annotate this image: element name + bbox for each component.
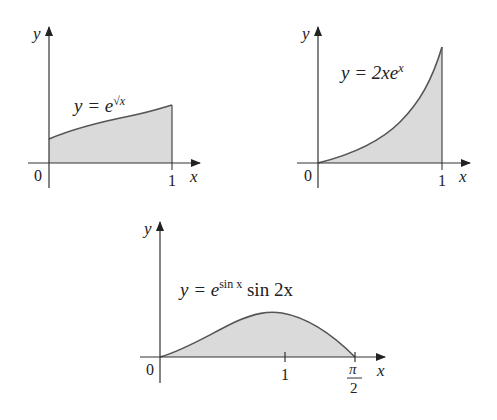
- y-axis-label: y: [142, 219, 152, 238]
- tick-label-1: 1: [281, 366, 289, 383]
- tick-label-1: 1: [438, 172, 446, 189]
- origin-label: 0: [34, 167, 42, 184]
- y-axis-label: y: [31, 24, 41, 43]
- origin-label: 0: [146, 361, 154, 378]
- graph-exp-sqrt: y x 0 1 y = e√x: [28, 24, 200, 189]
- figure-canvas: y x 0 1 y = e√x y x 0 1 y = 2xex y x 0 1…: [0, 0, 497, 420]
- shaded-region: [160, 312, 355, 357]
- x-axis-label: x: [189, 167, 198, 186]
- y-axis-label: y: [300, 24, 310, 43]
- graph-esinx-sin2x: y x 0 1 π 2 y = esin x sin 2x: [140, 219, 385, 396]
- tick-label-pi: π: [349, 361, 357, 377]
- equation-label: y = esin x sin 2x: [178, 277, 293, 300]
- graph-2xex: y x 0 1 y = 2xex: [297, 24, 470, 189]
- equation-label: y = e√x: [72, 94, 126, 116]
- equation-label: y = 2xex: [339, 61, 404, 83]
- origin-label: 0: [304, 167, 312, 184]
- tick-label-1: 1: [168, 172, 176, 189]
- tick-label-two: 2: [350, 380, 358, 396]
- x-axis-label: x: [458, 167, 467, 186]
- x-axis-label: x: [376, 361, 385, 380]
